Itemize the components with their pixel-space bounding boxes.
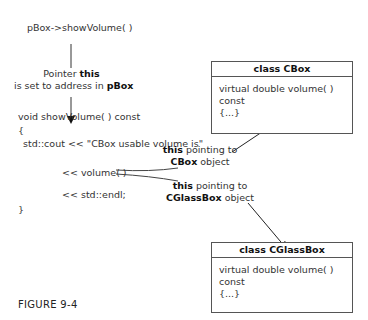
call-expression: pBox->showVolume( ): [27, 22, 132, 34]
class-box-cglassbox: class CGlassBox virtual double volume( )…: [211, 242, 353, 313]
code-endl-line: << std::endl;: [62, 189, 126, 201]
annotation-cbox: this pointing to CBox object: [160, 144, 240, 168]
annotation-text2: object: [222, 192, 254, 203]
annotation-bold2: CGlassBox: [166, 192, 222, 203]
annotation-bold: this: [173, 180, 193, 191]
code-volume-line: << volume( ): [62, 167, 127, 179]
pointer-label: Pointer this is set to address in pBox: [14, 68, 129, 92]
class-box-method: virtual double volume( ) const: [219, 264, 345, 288]
class-box-title: class CBox: [212, 62, 352, 77]
class-box-impl: {...}: [219, 288, 345, 300]
figure-caption: FIGURE 9-4: [18, 299, 78, 310]
code-close-brace: }: [18, 204, 24, 216]
annotation-text2: object: [197, 156, 229, 167]
pointer-label-bold2: pBox: [107, 80, 134, 91]
annotation-text: pointing to: [183, 144, 238, 155]
annotation-text: pointing to: [193, 180, 248, 191]
annotation-bold: this: [163, 144, 183, 155]
class-box-cbox: class CBox virtual double volume( ) cons…: [211, 61, 353, 134]
class-box-method: virtual double volume( ) const: [219, 83, 345, 107]
class-box-body: virtual double volume( ) const {...}: [212, 258, 352, 306]
class-box-impl: {...}: [219, 107, 345, 119]
code-open-brace: {: [18, 125, 24, 137]
annotation-bold2: CBox: [170, 156, 197, 167]
code-signature: void showVolume( ) const: [18, 111, 140, 123]
class-box-title: class CGlassBox: [212, 243, 352, 258]
pointer-label-bold: this: [80, 68, 100, 79]
pointer-label-text: Pointer: [43, 68, 79, 79]
class-box-body: virtual double volume( ) const {...}: [212, 77, 352, 125]
pointer-label-text2: is set to address in: [14, 80, 107, 91]
annotation-cglassbox: this pointing to CGlassBox object: [160, 180, 260, 204]
